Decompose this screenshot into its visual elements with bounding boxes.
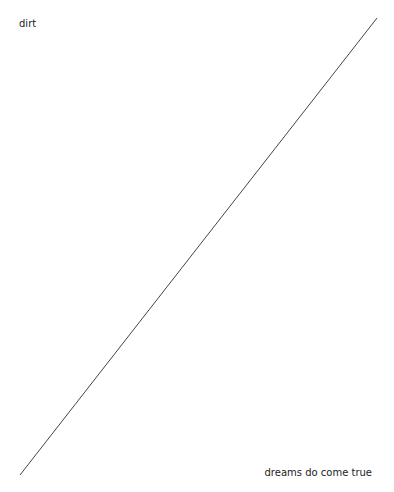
diagonal-line: [0, 0, 394, 492]
label-dreams: dreams do come true: [264, 467, 372, 479]
label-dirt: dirt: [19, 18, 36, 30]
canvas: dirt dreams do come true: [0, 0, 394, 492]
